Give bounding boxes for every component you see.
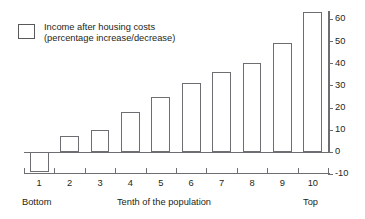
x-tick-label-10: 10 — [308, 179, 318, 188]
bar-4 — [121, 112, 140, 152]
plot-area — [24, 8, 328, 174]
x-tick-0 — [24, 168, 25, 174]
x-tick-1 — [54, 168, 55, 174]
bar-8 — [243, 63, 262, 152]
bar-5 — [151, 97, 170, 152]
bar-9 — [273, 43, 292, 151]
bar-series — [24, 8, 328, 174]
y-tick-label-30: 30 — [335, 81, 345, 90]
x-axis-caption-center: Tenth of the population — [117, 198, 211, 207]
bar-3 — [91, 130, 110, 152]
x-tick-9 — [298, 168, 299, 174]
x-tick-5 — [176, 168, 177, 174]
y-tick-label-50: 50 — [335, 37, 345, 46]
y-tick--10 — [328, 174, 333, 175]
y-tick-label-40: 40 — [335, 59, 345, 68]
x-tick-10 — [328, 168, 329, 174]
x-tick-8 — [267, 168, 268, 174]
y-tick-label-60: 60 — [335, 14, 345, 23]
x-axis-caption-bottom: Bottom — [22, 198, 51, 207]
bar-1 — [30, 152, 49, 172]
x-tick-6 — [206, 168, 207, 174]
y-tick-label-20: 20 — [335, 103, 345, 112]
x-tick-label-3: 3 — [97, 179, 102, 188]
y-tick-label-0: 0 — [335, 147, 340, 156]
x-tick-label-2: 2 — [67, 179, 72, 188]
x-tick-label-5: 5 — [158, 179, 163, 188]
y-tick-10 — [328, 130, 333, 131]
bar-chart: Income after housing costs (percentage i… — [0, 0, 365, 219]
bar-6 — [182, 83, 201, 152]
y-tick-40 — [328, 63, 333, 64]
y-tick-label-10: 10 — [335, 125, 345, 134]
x-tick-4 — [146, 168, 147, 174]
x-axis-caption-top: Top — [303, 198, 318, 207]
y-tick-20 — [328, 108, 333, 109]
x-tick-label-9: 9 — [280, 179, 285, 188]
x-tick-label-7: 7 — [219, 179, 224, 188]
x-tick-7 — [237, 168, 238, 174]
y-tick-30 — [328, 85, 333, 86]
x-tick-2 — [85, 168, 86, 174]
y-tick-label--10: -10 — [335, 169, 348, 178]
y-tick-60 — [328, 19, 333, 20]
y-tick-0 — [328, 152, 333, 153]
x-tick-3 — [115, 168, 116, 174]
bar-7 — [212, 72, 231, 152]
y-tick-50 — [328, 41, 333, 42]
bar-10 — [303, 12, 322, 151]
x-axis-line — [24, 173, 330, 174]
x-tick-label-4: 4 — [128, 179, 133, 188]
bar-2 — [60, 136, 79, 151]
x-tick-label-1: 1 — [37, 179, 42, 188]
x-tick-label-6: 6 — [189, 179, 194, 188]
zero-baseline — [24, 152, 328, 153]
x-tick-label-8: 8 — [249, 179, 254, 188]
y-axis-line — [328, 11, 330, 152]
